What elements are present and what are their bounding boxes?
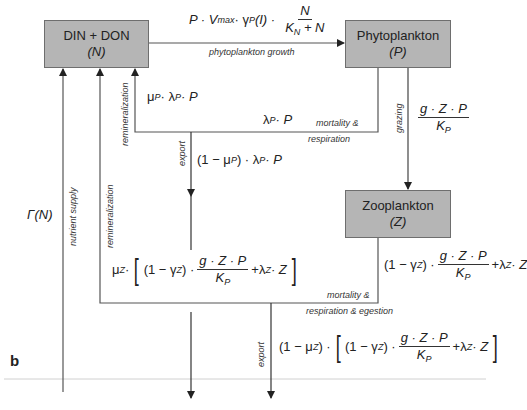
nutrient-supply-equation: Γ(N) [27, 207, 52, 222]
remin-z-label: remineralization [105, 184, 115, 248]
phytoplankton-box: Phytoplankton (P) [345, 20, 451, 68]
export-p-equation: (1 − μP ) · λP · P [197, 152, 282, 167]
zooplankton-box-symbol: (Z) [346, 214, 450, 230]
mort-z-label-2: respiration & egestion [306, 306, 393, 316]
grazing-label: grazing [394, 103, 404, 133]
nutrient-box-symbol: (N) [45, 44, 148, 60]
mort-z-label-1: mortality & [327, 290, 370, 300]
zooplankton-box: Zooplankton (Z) [345, 190, 451, 238]
nutrient-supply-label: nutrient supply [68, 187, 78, 246]
growth-equation: P · Vmax · γP (I) · N KN + N [189, 4, 330, 35]
mort-p-label-2: respiration [308, 134, 350, 144]
mort-z-equation: (1 − γZ) · g · Z · P KP +λZ · Z [384, 249, 527, 280]
grazing-equation: g · Z · P KP [415, 102, 472, 133]
export-z-label: export [256, 342, 266, 367]
export-p-label: export [177, 141, 187, 166]
panel-label: b [10, 352, 19, 369]
phytoplankton-box-symbol: (P) [346, 44, 450, 60]
remin-p-equation: μP · λP · P [147, 89, 198, 104]
growth-label: phytoplankton growth [209, 47, 295, 57]
remin-p-label: remineralization [120, 82, 130, 146]
zooplankton-box-name: Zooplankton [346, 198, 450, 214]
phytoplankton-box-name: Phytoplankton [346, 28, 450, 44]
nutrient-box: DIN + DON (N) [44, 20, 149, 68]
growth-fraction: N KN + N [283, 4, 326, 35]
mort-p-label-1: mortality & [316, 118, 359, 128]
nutrient-box-name: DIN + DON [45, 28, 148, 44]
export-z-equation: (1 − μZ) · [ (1 − γZ) · g · Z · P KP +λZ… [279, 331, 502, 362]
remin-z-equation: μZ · [ (1 − γZ) · g · Z · P KP +λZ · Z ] [112, 254, 301, 285]
mort-p-equation: λP · P [263, 112, 292, 127]
